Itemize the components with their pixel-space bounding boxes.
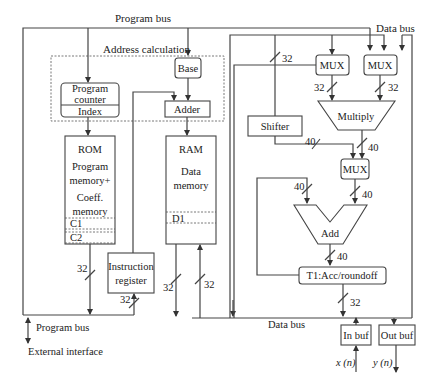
ram-block: RAM Data memory D1	[166, 136, 216, 244]
in-buf-block: In buf	[341, 325, 371, 345]
svg-text:32: 32	[120, 294, 131, 305]
svg-text:40: 40	[294, 181, 305, 192]
mux-1: MUX	[316, 55, 349, 75]
address-calculation-label: Address calculation	[103, 43, 191, 55]
svg-text:Adder: Adder	[174, 104, 201, 115]
adder-block: Adder	[165, 101, 210, 117]
svg-text:32: 32	[163, 282, 174, 293]
svg-text:40: 40	[337, 251, 348, 262]
svg-text:32: 32	[350, 297, 361, 308]
rom-block: ROM Program memory+ Coeff. memory C1 C2	[65, 136, 115, 244]
add-block: Add	[294, 205, 367, 244]
shifter-block: Shifter	[248, 116, 302, 136]
x-n-label: x (n)	[335, 357, 356, 369]
svg-text:Base: Base	[178, 63, 199, 74]
svg-text:Multiply: Multiply	[338, 111, 376, 122]
svg-text:ROM: ROM	[78, 144, 103, 155]
mux-3: MUX	[341, 159, 369, 179]
svg-text:MUX: MUX	[343, 164, 368, 175]
svg-text:T1:Acc/roundoff: T1:Acc/roundoff	[307, 270, 378, 281]
program-bus-label: Program bus	[115, 12, 171, 24]
svg-text:memory+: memory+	[70, 175, 111, 186]
svg-text:Add: Add	[321, 228, 340, 239]
c2-label: C2	[70, 232, 82, 243]
svg-text:memory: memory	[73, 206, 109, 217]
svg-text:register: register	[115, 275, 147, 286]
dsp-architecture-diagram: Program bus Data bus Address calculation…	[0, 0, 442, 391]
instruction-register-block: Instruction register	[108, 253, 154, 293]
svg-text:Program: Program	[72, 83, 108, 94]
svg-text:40: 40	[362, 189, 373, 200]
accumulator-block: T1:Acc/roundoff	[299, 267, 386, 284]
data-bus-bottom-label: Data bus	[268, 319, 305, 330]
svg-text:Coeff.: Coeff.	[77, 192, 103, 203]
program-bus-bottom-label: Program bus	[36, 322, 89, 333]
svg-text:40: 40	[305, 136, 316, 147]
mux-2: MUX	[364, 55, 397, 75]
c1-label: C1	[70, 218, 82, 229]
index-label: Index	[78, 106, 103, 117]
svg-text:MUX: MUX	[368, 60, 393, 71]
svg-text:In buf: In buf	[343, 330, 369, 341]
out-buf-block: Out buf	[379, 325, 415, 345]
multiply-block: Multiply	[318, 101, 395, 130]
svg-text:counter: counter	[74, 94, 106, 105]
svg-text:MUX: MUX	[320, 60, 345, 71]
data-bus-label: Data bus	[376, 22, 415, 34]
y-n-label: y (n)	[372, 357, 393, 369]
d1-label: D1	[172, 213, 185, 224]
svg-text:32: 32	[77, 263, 88, 274]
svg-text:Instruction: Instruction	[108, 261, 154, 272]
svg-text:memory: memory	[174, 180, 210, 191]
svg-text:Shifter: Shifter	[261, 121, 290, 132]
svg-text:32: 32	[388, 82, 399, 93]
svg-text:40: 40	[368, 142, 379, 153]
base-block: Base	[175, 58, 201, 78]
svg-text:RAM: RAM	[179, 144, 204, 155]
svg-text:32: 32	[204, 279, 215, 290]
program-counter-block: Program counter Index	[61, 83, 119, 117]
external-interface-label: External interface	[28, 346, 103, 357]
svg-text:Out buf: Out buf	[381, 330, 414, 341]
svg-text:32: 32	[314, 82, 325, 93]
svg-text:Data: Data	[181, 166, 201, 177]
svg-text:32: 32	[282, 53, 293, 64]
svg-text:Program: Program	[72, 161, 108, 172]
